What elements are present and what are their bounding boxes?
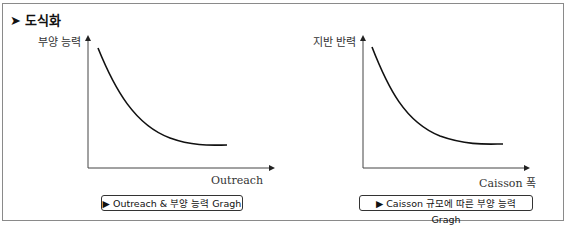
diagrams-canvas	[0, 0, 568, 225]
y-axis-label-left: 부양 능력	[38, 33, 82, 49]
y-axis-label-right: 지반 반력	[313, 33, 357, 49]
x-axis-label-left: Outreach	[211, 174, 263, 187]
caption-left: ▶ Outreach & 부양 능력 Gragh	[101, 195, 243, 211]
x-axis-label-right: Caisson 폭	[479, 174, 536, 190]
caisson-chart	[363, 38, 527, 168]
curve-line	[98, 48, 227, 145]
outreach-chart	[88, 38, 272, 168]
curve-line	[372, 47, 503, 144]
caption-right: ▶ Caisson 규모에 따른 부양 능력 Gragh	[359, 195, 533, 211]
